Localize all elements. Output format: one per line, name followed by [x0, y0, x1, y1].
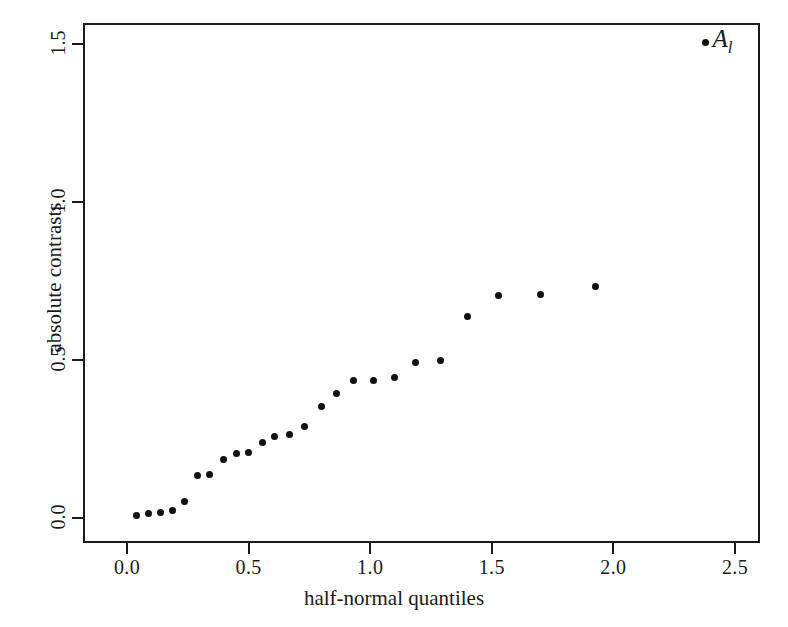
data-point: [333, 390, 340, 397]
data-point: [233, 450, 240, 457]
data-point: [391, 374, 398, 381]
data-point: [133, 512, 140, 519]
y-axis-tick: [72, 517, 83, 519]
x-axis-tick-label: 2.0: [583, 556, 643, 579]
x-axis-tick: [126, 543, 128, 554]
plot-frame: Al: [83, 23, 760, 543]
data-point: [412, 359, 419, 366]
annotation-subscript-text: l: [728, 38, 733, 57]
x-axis-tick-label: 0.5: [219, 556, 279, 579]
plot-area: Al: [85, 25, 758, 541]
x-axis-tick-label: 0.0: [97, 556, 157, 579]
data-point: [464, 313, 471, 320]
y-axis-tick-label: 0.5: [47, 348, 70, 372]
data-point: [286, 431, 293, 438]
data-point: [537, 291, 544, 298]
y-axis-tick: [72, 43, 83, 45]
data-point: [157, 509, 164, 516]
data-point: [495, 292, 502, 299]
data-point: [370, 377, 377, 384]
data-point: [318, 403, 325, 410]
x-axis-tick: [734, 543, 736, 554]
x-axis-tick: [369, 543, 371, 554]
point-annotation-label: Al: [712, 25, 732, 58]
data-point: [301, 423, 308, 430]
x-axis-tick: [248, 543, 250, 554]
half-normal-plot-figure: Al half-normal quantiles absolute contra…: [0, 0, 788, 627]
data-point: [169, 507, 176, 514]
data-point: [702, 39, 709, 46]
x-axis-title: half-normal quantiles: [0, 586, 788, 611]
y-axis-tick-label: 0.0: [47, 506, 70, 530]
data-point: [220, 456, 227, 463]
data-point: [194, 472, 201, 479]
y-axis-tick-label: 1.5: [47, 32, 70, 56]
annotation-main-text: A: [712, 25, 727, 52]
data-point: [206, 471, 213, 478]
data-point: [592, 283, 599, 290]
data-point: [437, 357, 444, 364]
y-axis-tick-label: 1.0: [47, 190, 70, 214]
x-axis-tick-label: 1.5: [462, 556, 522, 579]
data-point: [259, 439, 266, 446]
x-axis-tick-label: 2.5: [705, 556, 765, 579]
y-axis-tick: [72, 201, 83, 203]
x-axis-tick: [491, 543, 493, 554]
data-point: [181, 498, 188, 505]
y-axis-tick: [72, 359, 83, 361]
x-axis-tick: [612, 543, 614, 554]
data-point: [245, 449, 252, 456]
data-point: [350, 377, 357, 384]
data-point: [145, 510, 152, 517]
x-axis-tick-label: 1.0: [340, 556, 400, 579]
data-point: [271, 433, 278, 440]
